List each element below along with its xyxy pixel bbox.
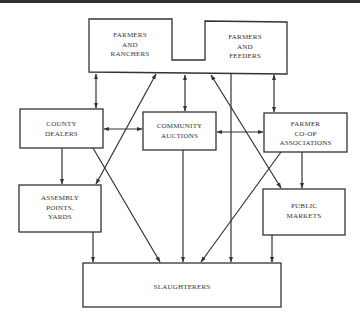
label-line: AND — [100, 41, 160, 51]
label-line: FARMERS — [210, 33, 280, 43]
label-line: ASSEMBLY — [19, 194, 101, 204]
node-public-markets: PUBLIC MARKETS — [263, 202, 345, 221]
node-farmer-coop: FARMER CO-OP ASSOCIATIONS — [264, 120, 347, 149]
node-community-auctions: COMMUNITY AUCTIONS — [143, 122, 216, 141]
label-line: PUBLIC — [263, 202, 345, 212]
label-line: COMMUNITY — [143, 122, 216, 132]
label-line: YARDS — [19, 213, 101, 223]
diagram-canvas — [0, 0, 360, 320]
label-line: COUNTY — [20, 120, 103, 130]
label-line: AND — [210, 43, 280, 53]
node-slaughterers: SLAUGHTERERS — [83, 283, 281, 293]
label-line: MARKETS — [263, 212, 345, 222]
label-line: FEEDERS — [210, 52, 280, 62]
node-farmers-ranchers: FARMERS AND RANCHERS — [100, 31, 160, 60]
label-line: ASSOCIATIONS — [264, 139, 347, 149]
label-line: FARMER — [264, 120, 347, 130]
label-line: FARMERS — [100, 31, 160, 41]
label-line: AUCTIONS — [143, 132, 216, 142]
label-line: CO-OP — [264, 130, 347, 140]
label-line: SLAUGHTERERS — [83, 283, 281, 293]
label-line: POINTS, — [19, 204, 101, 214]
label-line: RANCHERS — [100, 50, 160, 60]
label-line: DEALERS — [20, 130, 103, 140]
node-farmers-feeders: FARMERS AND FEEDERS — [210, 33, 280, 62]
node-county-dealers: COUNTY DEALERS — [20, 120, 103, 139]
node-assembly-points: ASSEMBLY POINTS, YARDS — [19, 194, 101, 223]
